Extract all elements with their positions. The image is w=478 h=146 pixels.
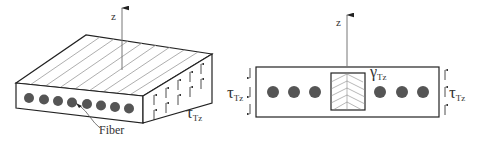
tau-symbol: τ [186, 103, 193, 122]
tau-symbol: τ [227, 83, 234, 102]
stress-label-section-left: τTz [227, 84, 243, 101]
tau-subscript: Tz [193, 113, 203, 123]
gamma-subscript: Tz [377, 72, 387, 82]
z-label-left: z [111, 11, 116, 22]
lamina-3d [16, 8, 212, 128]
diagram-canvas [0, 0, 478, 146]
tau-symbol: τ [449, 83, 456, 102]
fiber-label: Fiber [99, 124, 124, 136]
strain-label: γTz [370, 64, 387, 80]
stress-label-left-figure: τTz [186, 104, 202, 121]
stress-label-section-right: τTz [449, 84, 465, 101]
tau-subscript: Tz [234, 93, 244, 103]
shear-element [331, 73, 365, 110]
tau-subscript: Tz [456, 93, 466, 103]
z-label-right: z [336, 17, 341, 28]
cross-section [250, 15, 445, 117]
